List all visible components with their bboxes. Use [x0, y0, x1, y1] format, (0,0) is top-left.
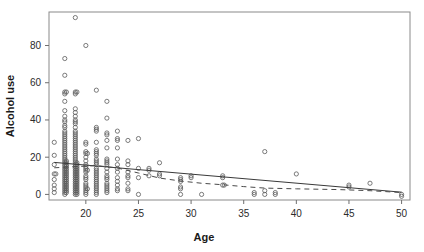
x-tick-label: 30: [186, 208, 198, 219]
x-axis-title: Age: [194, 231, 215, 243]
y-tick-label: 20: [30, 152, 42, 163]
y-tick-label: 0: [35, 189, 41, 200]
scatter-plot-figure: 20253035404550 020406080 Age Alcohol use: [0, 0, 424, 252]
x-tick-label: 35: [238, 208, 250, 219]
y-tick-label: 60: [30, 77, 42, 88]
y-tick-label: 40: [30, 114, 42, 125]
plot-canvas: 20253035404550 020406080 Age Alcohol use: [0, 0, 424, 252]
y-tick-label: 80: [30, 40, 42, 51]
x-tick-label: 40: [291, 208, 303, 219]
x-tick-label: 50: [396, 208, 408, 219]
x-tick-label: 25: [133, 208, 145, 219]
x-tick-label: 20: [80, 208, 92, 219]
y-axis-title: Alcohol use: [4, 75, 16, 137]
x-tick-label: 45: [343, 208, 355, 219]
